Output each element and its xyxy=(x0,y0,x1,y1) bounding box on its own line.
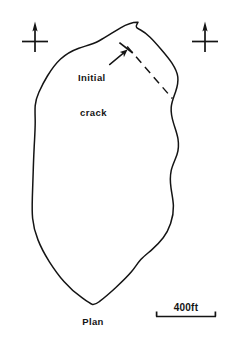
initial-crack-label: Initial crack xyxy=(78,49,107,142)
figure-canvas xyxy=(0,0,227,341)
plan-caption: Plan xyxy=(0,316,186,328)
initial-crack-feature xyxy=(119,43,172,99)
leader-line xyxy=(110,52,126,65)
plan-view-figure: Initial crack Plan 400ft xyxy=(0,0,227,341)
initial-crack-label-line-1: Initial xyxy=(78,72,107,84)
initial-crack-label-line-2: crack xyxy=(78,107,107,119)
scale-bar-value-label: 400ft xyxy=(155,302,217,314)
north-arrow-cross-marker-right xyxy=(192,22,218,53)
crack-label-leader-arrow xyxy=(110,49,128,64)
north-arrow-cross-marker-left xyxy=(22,22,48,53)
